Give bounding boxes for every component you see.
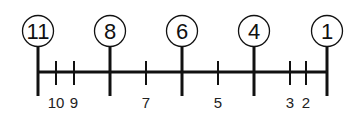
- tick-label-9: 9: [70, 94, 78, 111]
- tick-label-7: 7: [142, 94, 150, 111]
- circle-label-11: 11: [27, 19, 50, 44]
- circle-label-4: 4: [248, 19, 260, 44]
- circle-label-1: 1: [321, 19, 333, 44]
- tick-label-2: 2: [302, 94, 310, 111]
- circle-label-8: 8: [104, 19, 116, 44]
- tick-label-3: 3: [286, 94, 294, 111]
- tick-label-10: 10: [48, 94, 65, 111]
- tick-label-5: 5: [214, 94, 222, 111]
- number-line-diagram: 1186411097532: [0, 0, 360, 121]
- circle-label-6: 6: [176, 19, 188, 44]
